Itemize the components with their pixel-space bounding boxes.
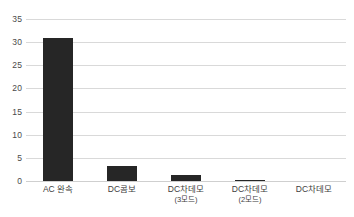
y-tick-label: 25	[0, 61, 22, 70]
x-axis-sublabel-text: (3모드)	[154, 195, 218, 205]
bar-slot	[282, 19, 346, 181]
x-axis-label-text: DC차데모	[296, 184, 332, 194]
bar[interactable]	[171, 175, 201, 181]
y-tick-label: 5	[0, 153, 22, 162]
x-axis-label: AC 완속	[26, 184, 90, 195]
gridline-0	[26, 181, 346, 182]
bar-chart: 05101520253035 AC 완속DC콤보DC차데모(3모드)DC차데모(…	[0, 0, 354, 217]
y-axis: 05101520253035	[0, 19, 22, 181]
y-tick-label: 30	[0, 38, 22, 47]
x-axis-label: DC차데모(2모드)	[218, 184, 282, 205]
x-axis-label: DC차데모(3모드)	[154, 184, 218, 205]
y-tick-label: 20	[0, 84, 22, 93]
bar-slot	[26, 19, 90, 181]
x-axis-label: DC콤보	[90, 184, 154, 195]
x-axis-label-text: DC차데모	[168, 184, 204, 194]
bar[interactable]	[107, 166, 137, 181]
y-tick-label: 15	[0, 107, 22, 116]
y-tick-label: 10	[0, 130, 22, 139]
x-axis-sublabel-text: (2모드)	[218, 195, 282, 205]
x-axis-label-text: DC콤보	[108, 184, 136, 194]
y-tick-label: 0	[0, 177, 22, 186]
x-axis: AC 완속DC콤보DC차데모(3모드)DC차데모(2모드)DC차데모	[26, 184, 346, 214]
plot-area	[26, 19, 346, 181]
bars-layer	[26, 19, 346, 181]
x-axis-label-text: AC 완속	[43, 184, 73, 194]
bar-slot	[90, 19, 154, 181]
bar[interactable]	[235, 180, 265, 181]
x-axis-label-text: DC차데모	[232, 184, 268, 194]
x-axis-label: DC차데모	[282, 184, 346, 195]
bar[interactable]	[43, 38, 73, 181]
bar-slot	[218, 19, 282, 181]
bar-slot	[154, 19, 218, 181]
y-tick-label: 35	[0, 15, 22, 24]
